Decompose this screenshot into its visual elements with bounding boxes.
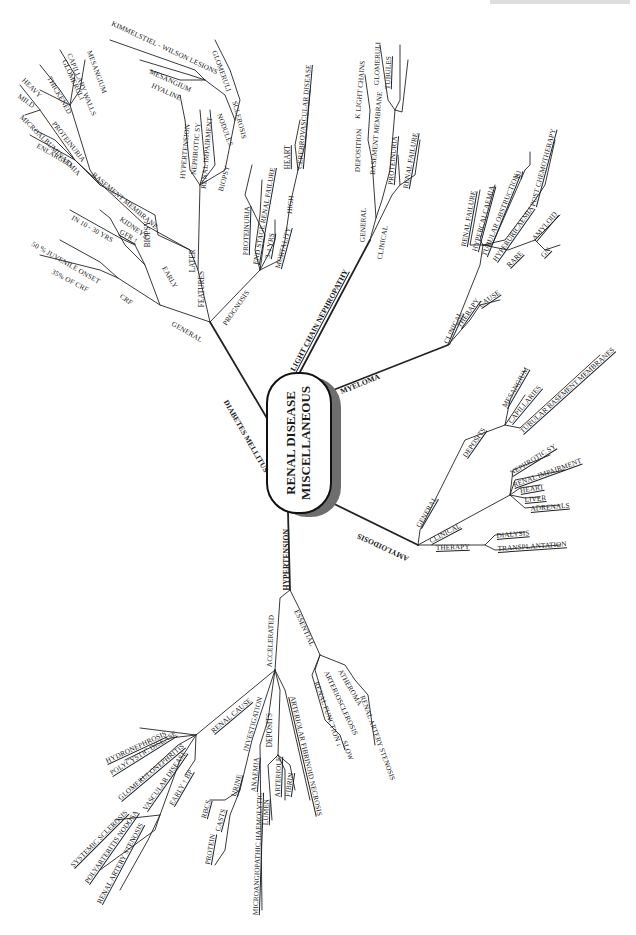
central-title-line1: RENAL DISEASE	[284, 386, 299, 500]
node-htn-deposits[interactable]: DEPOSITS	[267, 713, 274, 747]
node-lcn-general[interactable]: GENERAL	[360, 208, 368, 242]
node-diabetes-early-biopsy[interactable]: BIOPSY	[145, 221, 152, 247]
node-lcn-glomeruli[interactable]: GLOMERULI	[374, 42, 383, 85]
central-title-line2: MISCELLANEOUS	[299, 386, 314, 500]
node-diabetes-heart[interactable]: HEART	[285, 145, 292, 169]
node-diabetes-features[interactable]: FEATURES	[199, 271, 206, 307]
central-topic-node[interactable]: RENAL DISEASE MISCELLANEOUS	[266, 372, 332, 514]
branch-hypertension[interactable]: HYPERTENSION	[283, 529, 291, 591]
node-diabetes-later[interactable]: LATER	[190, 249, 197, 272]
node-lcn-deposition[interactable]: DEPOSITION	[355, 129, 364, 173]
node-lcn-tubules[interactable]: TUBULES	[385, 56, 393, 89]
node-myeloma-bj[interactable]: BJ	[515, 170, 523, 179]
node-htn-arteriole[interactable]: ARTERIOLE	[275, 757, 284, 798]
node-amyloid-therapy[interactable]: THERAPY	[436, 544, 470, 552]
central-topic-title: RENAL DISEASE MISCELLANEOUS	[284, 386, 314, 500]
node-htn-lumen[interactable]: LUMEN	[263, 799, 271, 825]
